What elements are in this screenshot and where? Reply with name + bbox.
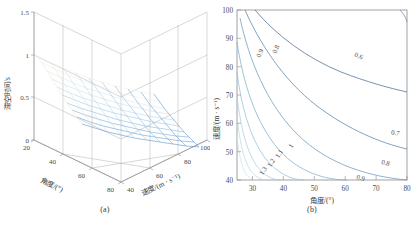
z-tick-05: 0.5 xyxy=(20,94,29,102)
contour-label-09: 0.9 xyxy=(356,173,367,182)
contour-y-tick-60: 60 xyxy=(226,120,234,128)
plot-box-grid xyxy=(34,12,207,182)
figure-container: 0 0.5 1 1.5 滞空时间/s 20 40 60 80 角度/(°) xyxy=(0,0,417,232)
y-tick-80: 80 xyxy=(184,158,192,166)
surface-mesh-columns xyxy=(37,56,199,147)
x-tick-20: 20 xyxy=(23,144,31,152)
x-axis-title: 角度/(°) xyxy=(39,176,65,194)
contour-label-09-upper: 0.9 xyxy=(255,47,265,58)
contour-y-axis: 100 90 80 70 60 50 40 xyxy=(222,7,241,185)
contour-y-tick-80: 80 xyxy=(226,64,234,72)
x-tick-80: 80 xyxy=(107,186,115,194)
contour-lines xyxy=(237,10,407,180)
contour-label-12: 1.2 xyxy=(266,157,277,168)
panel-a-caption: (a) xyxy=(0,205,210,214)
contour-label-06: 0.6 xyxy=(354,51,365,61)
contour-x-axis-title: 角度/(°) xyxy=(310,196,334,205)
contour-y-axis-title: 速度/(m · s⁻¹) xyxy=(212,98,221,140)
contour-y-tick-40: 40 xyxy=(226,177,234,185)
z-axis-title: 滞空时间/s xyxy=(3,77,12,110)
contour-y-tick-90: 90 xyxy=(226,35,234,43)
contour-label-11: 1.1 xyxy=(274,148,284,159)
contour-y-tick-100: 100 xyxy=(222,7,233,15)
contour-x-tick-40: 40 xyxy=(280,185,288,193)
surface-mesh-rows xyxy=(37,56,199,147)
contour-x-tick-70: 70 xyxy=(373,185,381,193)
panel-b-caption: (b) xyxy=(207,205,417,214)
contour-plot-svg: 0.6 0.7 0.8 0.9 1 1.1 1.2 1.3 0.9 0.8 xyxy=(207,0,417,205)
surface-plot-svg: 0 0.5 1 1.5 滞空时间/s 20 40 60 80 角度/(°) xyxy=(0,0,210,205)
y-tick-40: 40 xyxy=(127,186,135,194)
z-tick-1: 1 xyxy=(26,52,30,60)
panel-a-surface-plot: 0 0.5 1 1.5 滞空时间/s 20 40 60 80 角度/(°) xyxy=(0,0,210,232)
contour-label-07: 0.7 xyxy=(391,128,401,137)
z-tick-15: 1.5 xyxy=(20,9,29,17)
contour-x-tick-50: 50 xyxy=(311,185,319,193)
contour-label-1: 1 xyxy=(287,142,295,149)
contour-label-08: 0.8 xyxy=(381,158,392,167)
contour-x-tick-30: 30 xyxy=(249,185,257,193)
contour-x-tick-60: 60 xyxy=(342,185,350,193)
z-axis: 0 0.5 1 1.5 xyxy=(20,9,34,145)
contour-y-tick-50: 50 xyxy=(226,149,234,157)
x-axis-angle: 20 40 60 80 xyxy=(23,140,121,194)
x-tick-60: 60 xyxy=(78,172,86,180)
x-tick-40: 40 xyxy=(49,158,57,166)
contour-label-08-upper: 0.8 xyxy=(271,43,281,54)
contour-y-tick-70: 70 xyxy=(226,92,234,100)
contour-x-tick-80: 80 xyxy=(403,185,411,193)
panel-b-contour-plot: 0.6 0.7 0.8 0.9 1 1.1 1.2 1.3 0.9 0.8 xyxy=(207,0,417,232)
contour-label-13: 1.3 xyxy=(258,165,269,176)
